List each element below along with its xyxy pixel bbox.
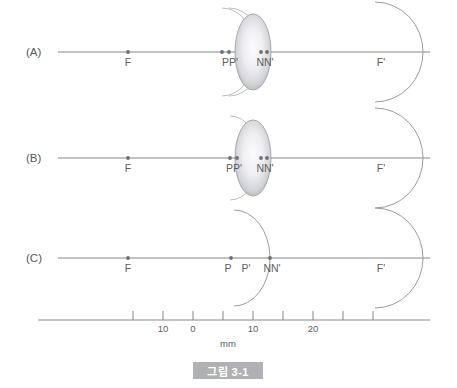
figure-canvas: (A)FPP'NN'F'(B)FPP'NN'F'(C)FPP'NN'F'1001…: [0, 0, 457, 388]
point-dot-a-Np: [265, 50, 269, 54]
ruler-tick-label-6: 20: [308, 323, 319, 334]
point-label-c-3: NN': [263, 262, 280, 274]
point-label-c-1: P: [224, 262, 231, 274]
point-label-a-3: F': [377, 56, 385, 68]
optics-figure: (A)FPP'NN'F'(B)FPP'NN'F'(C)FPP'NN'F'1001…: [0, 0, 457, 388]
ruler-unit-label: mm: [220, 338, 236, 349]
point-dot-b-P: [228, 156, 232, 160]
panel-label-c: (C): [26, 252, 42, 264]
panel-label-a: (A): [26, 46, 42, 58]
point-label-a-0: F: [125, 56, 131, 68]
point-dot-c-F: [126, 256, 130, 260]
point-dot-a-Pp: [227, 50, 231, 54]
point-dot-a-P: [220, 50, 224, 54]
point-dot-a-N: [259, 50, 263, 54]
point-dot-b-N: [259, 156, 263, 160]
point-dot-c-P: [229, 256, 233, 260]
panel-label-b: (B): [26, 152, 42, 164]
point-label-c-0: F: [125, 262, 131, 274]
panel-a: (A)FPP'NN'F': [26, 2, 430, 102]
ruler-tick-label-2: 0: [190, 323, 195, 334]
point-dot-b-Np: [265, 156, 269, 160]
figure-caption: 그림 3-1: [193, 362, 263, 379]
point-label-a-1: PP': [222, 56, 238, 68]
point-dot-a-F: [126, 50, 130, 54]
ruler-tick-label-4: 10: [248, 323, 259, 334]
point-label-b-3: F': [377, 162, 385, 174]
point-label-c-2: P': [241, 262, 250, 274]
panel-b: (B)FPP'NN'F': [26, 108, 430, 208]
point-label-b-0: F: [125, 162, 131, 174]
point-dot-b-Pp: [235, 156, 239, 160]
point-label-b-1: PP': [226, 162, 242, 174]
point-label-c-4: F': [377, 262, 385, 274]
panel-c: (C)FPP'NN'F': [26, 208, 430, 308]
point-dot-c-N: [268, 256, 272, 260]
ruler-tick-label-1: 10: [158, 323, 169, 334]
point-label-b-2: NN': [256, 162, 273, 174]
point-label-a-2: NN': [256, 56, 273, 68]
ruler-scale: 1001020mm: [38, 311, 430, 349]
point-dot-b-F: [126, 156, 130, 160]
